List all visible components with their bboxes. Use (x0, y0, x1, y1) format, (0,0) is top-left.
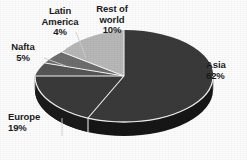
pie-label-latin-america: Latin America 4% (34, 6, 86, 38)
pie-label-nafta: Nafta 5% (2, 42, 44, 63)
pie-top-face (35, 30, 213, 122)
pie-label-europe: Europe 19% (8, 112, 60, 133)
pie-chart: Asia 62% Europe 19% Rest of world 10% Na… (0, 0, 247, 160)
pie-label-asia: Asia 62% (206, 60, 246, 81)
pie-label-rest-of-world: Rest of world 10% (84, 4, 140, 36)
